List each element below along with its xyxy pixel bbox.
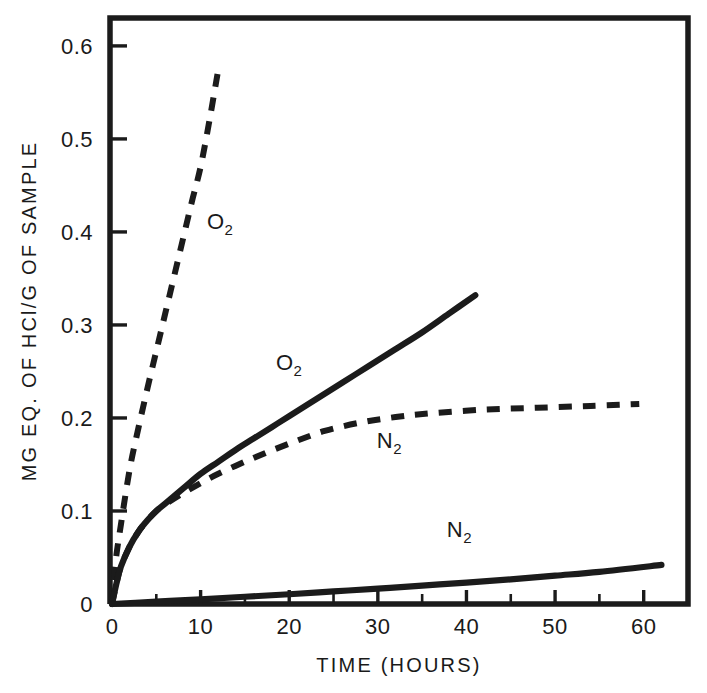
x-tick-label-5: 50 (542, 614, 567, 639)
x-tick-label-0: 0 (106, 614, 119, 639)
x-axis-title: TIME (HOURS) (316, 654, 481, 676)
y-tick-label-6: 0.6 (61, 34, 93, 59)
y-tick-label-5: 0.5 (61, 127, 93, 152)
y-tick-label-3: 0.3 (61, 313, 93, 338)
x-tick-label-3: 30 (365, 614, 390, 639)
y-tick-label-4: 0.4 (61, 220, 93, 245)
x-tick-label-6: 60 (631, 614, 656, 639)
y-tick-label-2: 0.2 (61, 406, 93, 431)
x-tick-label-4: 40 (454, 614, 479, 639)
y-tick-label-1: 0.1 (61, 499, 93, 524)
scientific-line-chart: 00.10.20.30.40.50.6 0102030405060 O2O2N2… (0, 0, 707, 693)
y-axis-title: MG EQ. OF HCl/G OF SAMPLE (18, 141, 40, 482)
figure-container: 00.10.20.30.40.50.6 0102030405060 O2O2N2… (0, 0, 707, 693)
x-tick-label-1: 10 (188, 614, 213, 639)
y-tick-label-0: 0 (80, 592, 93, 617)
x-tick-label-2: 20 (276, 614, 301, 639)
